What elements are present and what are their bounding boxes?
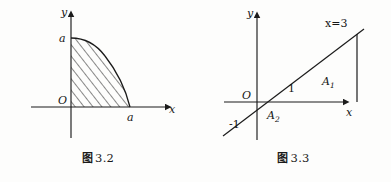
y-axis-label: y (246, 7, 254, 20)
shaded-region-quarter-astroid (62, 30, 142, 112)
caption-cjk-label: 图 (82, 152, 93, 165)
x-tick-label-1: 1 (288, 82, 295, 95)
x-axis-label: x (346, 106, 353, 119)
figure-3-3: x y O 1 -1 x=3 A1 A2 图3.3 (196, 0, 391, 182)
origin-label: O (242, 89, 251, 102)
origin-label: O (58, 94, 67, 107)
figure-3-2-caption: 图3.2 (0, 149, 196, 165)
figure-3-2: x y O a a 图3.2 (0, 0, 196, 182)
figure-3-3-caption: 图3.3 (196, 149, 391, 165)
figure-3-2-graphic: x y O a a (0, 0, 196, 145)
x-axis-label: x (169, 103, 176, 116)
x-tick-label-a: a (127, 111, 134, 124)
figure-3-3-graphic: x y O 1 -1 x=3 A1 A2 (196, 0, 391, 145)
region-label-a2: A2 (266, 109, 280, 124)
y-tick-label-minus-1: -1 (229, 118, 240, 131)
region-label-a1: A1 (321, 75, 335, 90)
caption-cjk-label: 图 (277, 152, 288, 165)
y-axis-label: y (60, 6, 68, 19)
caption-number: 3.2 (95, 151, 114, 165)
y-tick-label-a: a (59, 32, 66, 45)
label-x-equals-3: x=3 (325, 17, 347, 30)
textbook-figure-page: x y O a a 图3.2 (0, 0, 391, 182)
caption-number: 3.3 (291, 151, 310, 165)
